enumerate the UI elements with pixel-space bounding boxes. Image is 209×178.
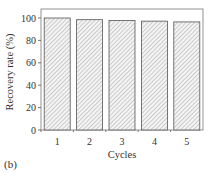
bars [44, 18, 200, 130]
x-tick-label: 5 [184, 136, 189, 147]
y-axis: 020406080100 [21, 13, 41, 136]
y-tick-label: 100 [21, 13, 36, 24]
x-axis: 12345 [41, 130, 189, 147]
bar-cycle-1 [44, 18, 70, 130]
y-tick-label: 0 [31, 125, 36, 136]
bar-cycle-5 [174, 22, 200, 130]
x-tick-label: 1 [55, 136, 60, 147]
bar-cycle-2 [77, 20, 103, 130]
y-tick-label: 20 [26, 102, 36, 113]
y-tick-label: 40 [26, 80, 36, 91]
bar-cycle-3 [109, 20, 135, 130]
x-tick-label: 2 [87, 136, 92, 147]
y-axis-label: Recovery rate (%) [4, 33, 16, 110]
x-axis-label: Cycles [108, 149, 137, 160]
y-tick-label: 80 [26, 35, 36, 46]
y-tick-label: 60 [26, 57, 36, 68]
x-tick-label: 4 [152, 136, 157, 147]
bar-cycle-4 [141, 21, 167, 130]
panel-label: (b) [4, 158, 17, 170]
x-tick-label: 3 [120, 136, 125, 147]
recovery-rate-bar-chart: 020406080100 12345 Recovery rate (%) Cyc… [0, 0, 209, 178]
